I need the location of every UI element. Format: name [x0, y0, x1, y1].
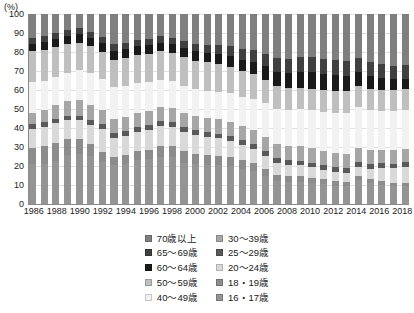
bar-segment: [52, 105, 59, 118]
bar-2015[interactable]: [367, 14, 374, 204]
bar-segment: [378, 90, 385, 111]
x-axis-tick-1996: 1996: [139, 206, 159, 216]
bar-2005[interactable]: [250, 14, 257, 204]
bar-2007[interactable]: [273, 14, 280, 204]
bar-segment: [390, 186, 397, 204]
legend-swatch-icon: [145, 249, 152, 256]
bar-segment: [180, 48, 187, 57]
bar-segment: [169, 108, 176, 122]
bar-2000[interactable]: [192, 14, 199, 204]
legend-item-left-0[interactable]: 70歳以上: [145, 232, 198, 245]
bar-segment: [343, 113, 350, 154]
bar-segment: [145, 39, 152, 46]
legend-item-right-4[interactable]: 16・17歳: [216, 291, 269, 304]
bar-segment: [76, 139, 83, 153]
bar-segment: [64, 44, 71, 73]
y-axis-tick-100: 100: [9, 10, 24, 19]
bar-segment: [239, 145, 246, 160]
legend-item-left-1[interactable]: 65～69歳: [145, 247, 198, 260]
legend-item-left-3[interactable]: 50～59歳: [145, 276, 198, 289]
bar-1988[interactable]: [52, 14, 59, 204]
legend-item-right-2[interactable]: 20～24歳: [216, 261, 269, 274]
bar-segment: [180, 132, 187, 151]
bar-segment: [41, 50, 48, 80]
bar-2008[interactable]: [285, 14, 292, 204]
bar-1987[interactable]: [41, 14, 48, 204]
bar-2017[interactable]: [390, 14, 397, 204]
bar-segment: [99, 162, 106, 204]
bar-segment: [367, 62, 374, 76]
bar-segment: [192, 135, 199, 154]
bar-2004[interactable]: [239, 14, 246, 204]
legend-label: 25～29歳: [228, 247, 269, 258]
bar-2018[interactable]: [402, 14, 409, 204]
bar-segment: [297, 72, 304, 88]
bar-2011[interactable]: [320, 14, 327, 204]
bar-1993[interactable]: [110, 14, 117, 204]
bar-1995[interactable]: [134, 14, 141, 204]
bar-segment: [134, 55, 141, 84]
bar-segment: [157, 80, 164, 108]
bar-segment: [204, 118, 211, 132]
bar-segment: [262, 14, 269, 54]
bar-segment: [367, 183, 374, 204]
legend-item-right-1[interactable]: 25～29歳: [216, 247, 269, 260]
bar-segment: [297, 88, 304, 110]
bar-2014[interactable]: [355, 14, 362, 204]
bar-segment: [169, 38, 176, 45]
bar-2002[interactable]: [215, 14, 222, 204]
bar-1997[interactable]: [157, 14, 164, 204]
bar-segment: [87, 144, 94, 155]
chart-legend: 70歳以上65～69歳60～64歳50～59歳40～49歳 30～39歳25～2…: [0, 232, 414, 313]
legend-item-left-2[interactable]: 60～64歳: [145, 261, 198, 274]
bar-segment: [64, 73, 71, 102]
bar-2006[interactable]: [262, 14, 269, 204]
bar-segment: [367, 169, 374, 179]
y-axis-tick-80: 80: [14, 48, 24, 57]
y-axis-tick-30: 30: [14, 143, 24, 152]
bar-segment: [110, 165, 117, 204]
bar-segment: [145, 130, 152, 150]
x-axis-tick-1992: 1992: [93, 206, 113, 216]
y-axis-tick-60: 60: [14, 86, 24, 95]
bar-segment: [297, 57, 304, 72]
legend-item-right-0[interactable]: 30～39歳: [216, 232, 269, 245]
bar-1994[interactable]: [122, 14, 129, 204]
bar-segment: [29, 44, 36, 52]
bar-segment: [180, 57, 187, 86]
bar-segment: [215, 119, 222, 133]
x-axis-tick-labels: 1986198819901992199419961998200020022004…: [28, 206, 408, 220]
legend-swatch-icon: [145, 294, 152, 301]
bar-segment: [204, 165, 211, 204]
bar-1999[interactable]: [180, 14, 187, 204]
bar-segment: [204, 14, 211, 45]
bar-segment: [378, 64, 385, 77]
bar-1998[interactable]: [169, 14, 176, 204]
bar-segment: [76, 120, 83, 139]
bar-segment: [308, 57, 315, 72]
bar-2013[interactable]: [343, 14, 350, 204]
bar-2009[interactable]: [297, 14, 304, 204]
bar-2010[interactable]: [308, 14, 315, 204]
bar-segment: [169, 44, 176, 53]
bar-segment: [343, 91, 350, 113]
bar-segment: [76, 34, 83, 43]
bar-1990[interactable]: [76, 14, 83, 204]
bar-2003[interactable]: [227, 14, 234, 204]
bar-segment: [285, 14, 292, 59]
legend-item-right-3[interactable]: 18・19歳: [216, 276, 269, 289]
legend-item-left-4[interactable]: 40～49歳: [145, 291, 198, 304]
bar-segment: [239, 60, 246, 71]
bar-1996[interactable]: [145, 14, 152, 204]
bar-segment: [204, 137, 211, 155]
bar-1986[interactable]: [29, 14, 36, 204]
bar-1989[interactable]: [64, 14, 71, 204]
bar-2012[interactable]: [332, 14, 339, 204]
bar-segment: [227, 93, 234, 122]
bar-2001[interactable]: [204, 14, 211, 204]
bar-segment: [215, 138, 222, 155]
bar-segment: [343, 173, 350, 182]
bar-2016[interactable]: [378, 14, 385, 204]
bar-1991[interactable]: [87, 14, 94, 204]
bar-1992[interactable]: [99, 14, 106, 204]
